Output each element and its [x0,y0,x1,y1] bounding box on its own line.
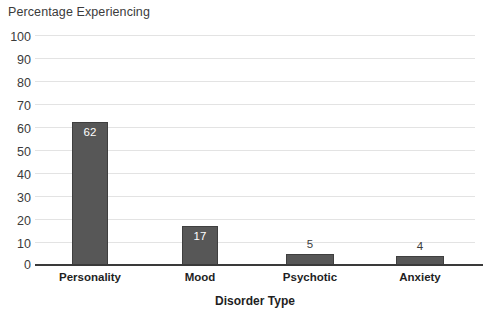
y-tick-label: 70 [0,100,31,113]
x-axis-line [35,264,483,266]
plot-area: 62 17 5 4 [35,35,475,265]
bar-group-psychotic: 5 [255,35,365,265]
y-tick-label: 20 [0,215,31,228]
y-tick-label: 40 [0,169,31,182]
x-axis-tick-labels: Personality Mood Psychotic Anxiety [35,271,475,291]
x-axis-title: Disorder Type [35,294,475,308]
bar-value-label: 17 [183,231,217,243]
bar-value-label: 5 [307,239,313,251]
bar-mood: 17 [182,226,218,265]
bar-chart: Percentage Experiencing 100 90 80 70 60 … [0,0,491,320]
bar-group-personality: 62 [35,35,145,265]
category-label-personality: Personality [35,271,145,283]
category-label-anxiety: Anxiety [365,271,475,283]
y-tick-label: 100 [0,31,31,44]
y-tick-label: 60 [0,123,31,136]
y-tick-label: 30 [0,192,31,205]
y-tick-label: 80 [0,77,31,90]
bar-value-label: 62 [73,127,107,139]
category-label-mood: Mood [145,271,255,283]
bar-group-anxiety: 4 [365,35,475,265]
bar-group-mood: 17 [145,35,255,265]
category-label-psychotic: Psychotic [255,271,365,283]
y-tick-label: 0 [0,259,31,272]
y-axis: 100 90 80 70 60 50 40 30 20 10 0 [0,0,31,320]
y-tick-label: 10 [0,238,31,251]
bar-personality: 62 [72,122,108,265]
y-tick-label: 90 [0,54,31,67]
y-tick-label: 50 [0,146,31,159]
bar-value-label: 4 [417,241,423,253]
